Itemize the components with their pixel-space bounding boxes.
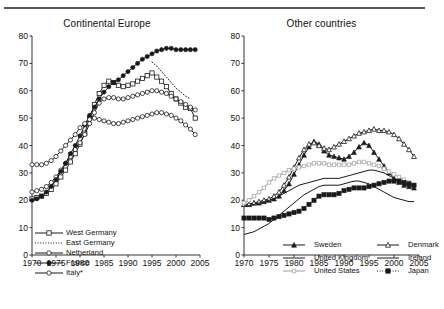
- legend-item-france: France: [34, 258, 117, 268]
- legend-other-countries: SwedenDenmarkUnited KingdomIrelandUnited…: [282, 240, 444, 276]
- legend-key-icon: [34, 248, 64, 258]
- svg-text:1975: 1975: [260, 258, 279, 268]
- legend-label: East Germany: [64, 239, 115, 247]
- top-rule: [4, 7, 425, 9]
- legend-key-icon: [376, 253, 406, 263]
- svg-text:40: 40: [19, 141, 29, 151]
- legend-item-netherland: Netherland: [34, 248, 117, 258]
- svg-text:70: 70: [19, 58, 29, 68]
- legend-item-united-kingdom: United Kingdom: [282, 253, 374, 263]
- legend-label: France: [64, 259, 90, 267]
- svg-text:30: 30: [231, 168, 241, 178]
- legend-item-italy: Italy*: [34, 268, 117, 278]
- svg-text:60: 60: [19, 86, 29, 96]
- svg-text:70: 70: [231, 58, 241, 68]
- svg-text:1995: 1995: [143, 258, 162, 268]
- legend-key-icon: [282, 266, 312, 276]
- svg-text:60: 60: [231, 86, 241, 96]
- legend-key-icon: [34, 228, 64, 238]
- legend-label: West Germany: [64, 229, 117, 237]
- legend-key-icon: [376, 266, 406, 276]
- svg-text:10: 10: [231, 223, 241, 233]
- svg-text:1990: 1990: [119, 258, 138, 268]
- legend-label: United States: [312, 267, 360, 275]
- legend-key-icon: [282, 253, 312, 263]
- legend-label: Netherland: [64, 249, 103, 257]
- svg-text:20: 20: [19, 195, 29, 205]
- legend-item-japan: Japan: [376, 266, 444, 276]
- legend-item-east-germany: East Germany: [34, 238, 117, 248]
- svg-text:50: 50: [231, 113, 241, 123]
- legend-label: Denmark: [406, 241, 439, 249]
- svg-text:40: 40: [231, 141, 241, 151]
- legend-label: Japan: [406, 267, 429, 275]
- legend-label: Sweden: [312, 241, 341, 249]
- svg-text:1970: 1970: [235, 258, 254, 268]
- legend-item-sweden: Sweden: [282, 240, 374, 250]
- svg-text:20: 20: [231, 195, 241, 205]
- legend-key-icon: [282, 240, 312, 250]
- svg-text:80: 80: [19, 31, 29, 41]
- legend-item-west-germany: West Germany: [34, 228, 117, 238]
- svg-text:80: 80: [231, 31, 241, 41]
- svg-text:2005: 2005: [191, 258, 210, 268]
- legend-key-icon: [34, 238, 64, 248]
- svg-text:30: 30: [19, 168, 29, 178]
- legend-label: Italy*: [64, 269, 83, 277]
- legend-label: United Kingdom: [312, 254, 368, 262]
- legend-key-icon: [34, 268, 64, 278]
- svg-text:50: 50: [19, 113, 29, 123]
- legend-item-denmark: Denmark: [376, 240, 444, 250]
- svg-text:10: 10: [19, 223, 29, 233]
- legend-key-icon: [376, 240, 406, 250]
- legend-continental-europe: West GermanyEast GermanyNetherlandFrance…: [34, 228, 117, 278]
- legend-label: Ireland: [406, 254, 431, 262]
- legend-item-united-states: United States: [282, 266, 374, 276]
- legend-key-icon: [34, 258, 64, 268]
- svg-text:2000: 2000: [167, 258, 186, 268]
- legend-item-ireland: Ireland: [376, 253, 444, 263]
